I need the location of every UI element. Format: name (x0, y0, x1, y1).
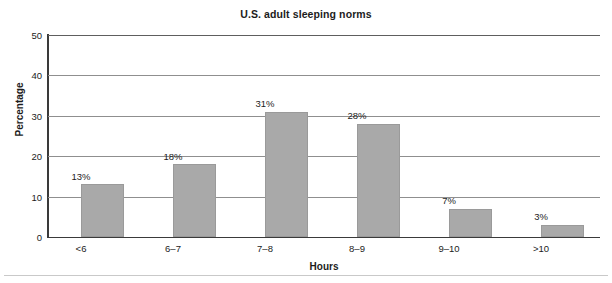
x-axis-line (48, 237, 600, 239)
plot-area (48, 35, 600, 237)
gridline-10 (48, 197, 600, 198)
bar-value-8-9: 28% (327, 110, 387, 121)
x-tick-7-8: 7–8 (230, 243, 300, 254)
gridline-30 (48, 116, 600, 117)
bottom-divider (4, 275, 608, 276)
y-tick-50: 50 (8, 30, 42, 41)
bar-8-9[interactable] (357, 124, 400, 237)
x-tick-8-9: 8–9 (322, 243, 392, 254)
bar-value-9-10: 7% (419, 195, 479, 206)
chart-title: U.S. adult sleeping norms (0, 8, 612, 20)
x-tick-6-7: 6–7 (138, 243, 208, 254)
bar-value-6-7: 18% (143, 151, 203, 162)
gridline-40 (48, 75, 600, 76)
y-axis-title: Percentage (14, 55, 25, 165)
bar-9-10[interactable] (449, 209, 492, 237)
bar-value-7-8: 31% (235, 98, 295, 109)
bar-value-gt10: 3% (511, 211, 571, 222)
y-tick-0: 0 (8, 232, 42, 243)
x-tick-9-10: 9–10 (414, 243, 484, 254)
x-tick-lt6: <6 (46, 243, 116, 254)
bar-6-7[interactable] (173, 164, 216, 237)
bar-lt6[interactable] (81, 184, 124, 237)
bar-gt10[interactable] (541, 225, 584, 237)
bar-7-8[interactable] (265, 112, 308, 237)
x-axis-title: Hours (48, 261, 600, 272)
x-tick-gt10: >10 (506, 243, 576, 254)
gridline-20 (48, 156, 600, 157)
bar-value-lt6: 13% (51, 171, 111, 182)
y-tick-10: 10 (8, 191, 42, 202)
gridline-50 (48, 35, 600, 36)
chart-figure: U.S. adult sleeping norms 50 40 30 20 10… (0, 0, 612, 283)
